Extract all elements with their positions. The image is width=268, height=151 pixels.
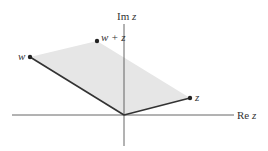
label-w: w	[18, 50, 26, 62]
re-prefix: Re	[237, 109, 249, 121]
point-w	[28, 55, 32, 59]
imaginary-axis-label: Im z	[117, 10, 137, 22]
im-var: z	[131, 10, 137, 22]
parallelogram-diagram: w w + z z Im z Re z	[0, 0, 268, 151]
label-w-plus-z: w + z	[101, 31, 126, 43]
real-axis-label: Re z	[237, 109, 257, 121]
re-var: z	[251, 109, 257, 121]
im-prefix: Im	[117, 10, 130, 22]
point-w-plus-z	[95, 39, 99, 43]
label-z: z	[194, 91, 200, 103]
point-z	[188, 96, 192, 100]
